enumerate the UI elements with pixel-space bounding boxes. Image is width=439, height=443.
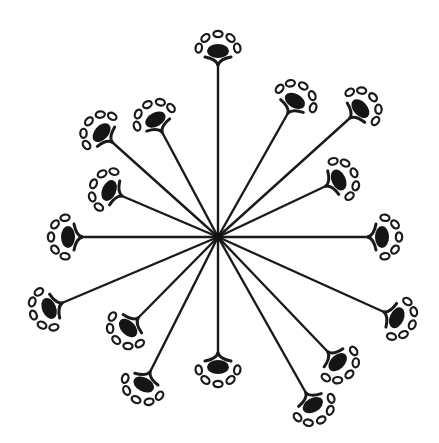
cell-node bbox=[21, 282, 71, 338]
fork-arm bbox=[205, 57, 218, 65]
satellite-oval bbox=[107, 311, 117, 322]
satellite-oval bbox=[48, 232, 54, 241]
fork-arm bbox=[368, 237, 376, 250]
satellite-oval bbox=[225, 375, 236, 386]
cell-body bbox=[61, 226, 75, 248]
fork-arm bbox=[218, 57, 231, 65]
satellite-oval bbox=[380, 252, 390, 260]
satellite-oval bbox=[396, 232, 402, 241]
satellite-oval bbox=[326, 405, 335, 416]
cell-body bbox=[131, 373, 157, 395]
satellite-oval bbox=[131, 395, 142, 405]
cell-body bbox=[142, 108, 168, 131]
satellite-oval bbox=[133, 121, 142, 132]
fork-arm bbox=[218, 353, 231, 361]
cell-node bbox=[81, 161, 131, 217]
satellite-oval bbox=[89, 178, 98, 189]
cell-node bbox=[195, 31, 241, 65]
spoke-line bbox=[218, 113, 288, 237]
satellite-oval bbox=[50, 244, 61, 255]
cell-body bbox=[98, 178, 120, 204]
satellite-oval bbox=[109, 167, 119, 175]
satellite-oval bbox=[134, 338, 145, 349]
satellite-oval bbox=[134, 109, 143, 120]
satellite-oval bbox=[50, 219, 61, 230]
satellite-oval bbox=[29, 310, 38, 321]
cell-node bbox=[114, 362, 171, 413]
satellite-oval bbox=[36, 320, 47, 330]
satellite-oval bbox=[121, 373, 130, 384]
satellite-oval bbox=[93, 202, 104, 212]
satellite-oval bbox=[316, 415, 327, 425]
cell-body bbox=[300, 394, 326, 417]
cell-node bbox=[71, 102, 127, 159]
satellite-oval bbox=[142, 100, 153, 110]
satellite-oval bbox=[95, 111, 105, 119]
satellite-oval bbox=[398, 330, 409, 340]
satellite-oval bbox=[298, 81, 309, 91]
satellite-oval bbox=[344, 87, 355, 97]
satellite-oval bbox=[402, 296, 413, 306]
fork-arm bbox=[74, 237, 82, 250]
satellite-oval bbox=[97, 169, 108, 179]
satellite-oval bbox=[213, 31, 222, 37]
spokes-layer bbox=[62, 65, 384, 393]
satellite-oval bbox=[213, 381, 222, 387]
cell-node bbox=[368, 214, 402, 260]
satellite-oval bbox=[386, 332, 396, 340]
satellite-oval bbox=[380, 214, 390, 222]
satellite-oval bbox=[348, 345, 358, 356]
central-hub bbox=[214, 233, 222, 241]
satellite-oval bbox=[344, 369, 355, 380]
satellite-oval bbox=[370, 115, 381, 126]
satellite-oval bbox=[292, 412, 303, 423]
satellite-oval bbox=[83, 116, 94, 127]
satellite-oval bbox=[303, 419, 313, 427]
satellite-oval bbox=[409, 306, 418, 317]
cell-node bbox=[374, 291, 424, 347]
satellite-oval bbox=[333, 377, 343, 384]
spoke-line bbox=[122, 196, 218, 237]
satellite-oval bbox=[195, 365, 203, 375]
cell-body bbox=[207, 360, 229, 374]
satellite-oval bbox=[154, 390, 165, 401]
cell-node bbox=[48, 214, 82, 260]
satellite-oval bbox=[349, 167, 359, 178]
cell-body bbox=[207, 44, 229, 58]
satellite-oval bbox=[80, 129, 87, 138]
satellite-oval bbox=[285, 79, 295, 87]
satellite-oval bbox=[352, 358, 359, 368]
spoke-line bbox=[218, 186, 326, 237]
radial-diagram bbox=[0, 0, 439, 443]
satellite-oval bbox=[81, 139, 92, 150]
satellite-oval bbox=[390, 219, 401, 230]
cell-body bbox=[282, 89, 308, 112]
satellite-oval bbox=[200, 33, 211, 44]
satellite-oval bbox=[122, 385, 132, 396]
satellite-oval bbox=[60, 252, 70, 260]
satellite-oval bbox=[368, 92, 379, 103]
satellite-oval bbox=[88, 192, 97, 203]
satellite-oval bbox=[233, 43, 241, 53]
satellite-oval bbox=[390, 244, 401, 255]
satellite-oval bbox=[144, 398, 154, 406]
satellite-oval bbox=[49, 323, 59, 331]
satellite-oval bbox=[123, 342, 133, 349]
cell-node bbox=[334, 78, 390, 135]
spoke-line bbox=[150, 237, 218, 372]
satellite-oval bbox=[327, 393, 336, 404]
satellite-oval bbox=[111, 335, 122, 346]
satellite-oval bbox=[328, 157, 339, 166]
satellite-oval bbox=[407, 319, 417, 330]
cell-body bbox=[38, 296, 59, 322]
spoke-line bbox=[138, 237, 218, 318]
satellite-oval bbox=[60, 214, 70, 222]
satellite-oval bbox=[274, 83, 285, 94]
cell-body bbox=[386, 305, 408, 331]
cell-node bbox=[125, 91, 182, 143]
satellite-oval bbox=[320, 372, 331, 383]
satellite-oval bbox=[357, 87, 367, 95]
satellite-oval bbox=[166, 102, 177, 113]
fork-arm bbox=[74, 224, 82, 237]
cell-body bbox=[328, 167, 350, 193]
